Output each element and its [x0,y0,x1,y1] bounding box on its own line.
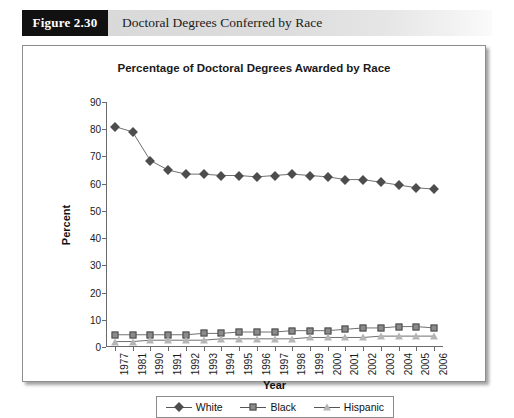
chart-card: Percentage of Doctoral Degrees Awarded b… [22,45,486,382]
x-tick-label: 1992 [190,353,201,375]
legend-sample [314,402,340,412]
y-tick-label: 50 [90,205,101,216]
y-tick-label: 80 [90,124,101,135]
y-tick-mark [102,347,106,348]
triangle-marker-icon [341,334,349,341]
x-tick-label: 2000 [332,353,343,375]
x-tick-mark [381,347,382,351]
x-tick-mark [399,347,400,351]
x-tick-mark [150,347,151,351]
triangle-marker-icon [146,337,154,344]
x-tick-mark [115,347,116,351]
square-marker-icon [250,404,257,411]
x-axis-title: Year [106,379,443,391]
x-tick-label: 2003 [385,353,396,375]
x-tick-label: 1996 [261,353,272,375]
x-tick-mark [416,347,417,351]
x-tick-mark [363,347,364,351]
triangle-marker-icon [111,338,119,345]
legend-sample [240,402,266,412]
x-tick-mark [133,347,134,351]
x-tick-label: 1995 [243,353,254,375]
x-tick-mark [221,347,222,351]
triangle-marker-icon [324,334,332,341]
triangle-marker-icon [253,335,261,342]
y-tick-label: 40 [90,233,101,244]
chart-title: Percentage of Doctoral Degrees Awarded b… [23,62,485,74]
triangle-marker-icon [182,337,190,344]
figure-caption: Doctoral Degrees Conferred by Race [108,10,492,36]
triangle-marker-icon [217,335,225,342]
legend-label: Black [270,401,296,413]
x-tick-label: 1990 [154,353,165,375]
x-tick-label: 1997 [279,353,290,375]
triangle-marker-icon [412,333,420,340]
x-tick-label: 2002 [367,353,378,375]
square-marker-icon [413,323,420,330]
triangle-marker-icon [395,333,403,340]
legend-label: White [196,401,223,413]
diamond-marker-icon [174,402,184,412]
triangle-marker-icon [288,335,296,342]
x-tick-mark [275,347,276,351]
triangle-marker-icon [323,404,331,411]
x-tick-label: 1981 [137,353,148,375]
square-marker-icon [431,324,438,331]
x-tick-label: 1993 [208,353,219,375]
square-marker-icon [289,327,296,334]
x-tick-mark [204,347,205,351]
figure-number-label: Figure 2.30 [22,10,108,36]
x-tick-mark [434,347,435,351]
triangle-marker-icon [271,335,279,342]
x-tick-label: 2001 [349,353,360,375]
x-tick-mark [186,347,187,351]
x-tick-label: 1998 [296,353,307,375]
x-tick-label: 1999 [314,353,325,375]
triangle-marker-icon [377,333,385,340]
x-tick-label: 1994 [225,353,236,375]
y-tick-label: 30 [90,260,101,271]
y-tick-label: 90 [90,97,101,108]
triangle-marker-icon [164,337,172,344]
triangle-marker-icon [129,338,137,345]
x-tick-mark [239,347,240,351]
legend-entry-black[interactable]: Black [240,401,296,413]
x-tick-label: 1991 [172,353,183,375]
legend-entry-white[interactable]: White [166,401,223,413]
series-lines [106,102,443,347]
x-tick-mark [328,347,329,351]
triangle-marker-icon [306,334,314,341]
figure-header-band: Figure 2.30 Doctoral Degrees Conferred b… [22,10,492,36]
y-tick-label: 20 [90,287,101,298]
y-tick-label: 60 [90,178,101,189]
chart-legend: WhiteBlackHispanic [156,396,394,418]
x-tick-mark [292,347,293,351]
square-marker-icon [377,324,384,331]
legend-label: Hispanic [344,401,384,413]
x-tick-mark [345,347,346,351]
square-marker-icon [395,323,402,330]
plot-area: 0102030405060708090 19771981199019911992… [106,102,443,347]
y-tick-label: 0 [95,342,101,353]
triangle-marker-icon [359,334,367,341]
y-tick-label: 70 [90,151,101,162]
x-tick-label: 2006 [438,353,449,375]
square-marker-icon [342,326,349,333]
triangle-marker-icon [430,333,438,340]
x-tick-mark [310,347,311,351]
triangle-marker-icon [235,335,243,342]
legend-sample [166,402,192,412]
x-tick-label: 2005 [420,353,431,375]
legend-entry-hispanic[interactable]: Hispanic [314,401,384,413]
y-axis-title: Percent [59,102,73,347]
x-tick-label: 2004 [403,353,414,375]
y-axis-title-text: Percent [60,204,72,244]
x-tick-mark [168,347,169,351]
x-tick-label: 1977 [119,353,130,375]
y-tick-label: 10 [90,314,101,325]
x-tick-mark [257,347,258,351]
triangle-marker-icon [200,337,208,344]
square-marker-icon [360,324,367,331]
